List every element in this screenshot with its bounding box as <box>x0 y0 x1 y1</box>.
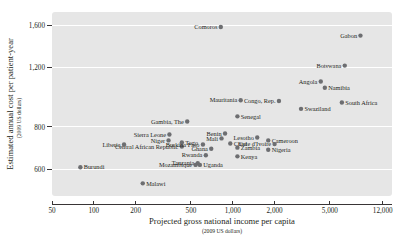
point-label: Cote d'Ivoire <box>238 140 271 147</box>
point-label: Swaziland <box>304 105 331 112</box>
y-tick-label: 1,600 <box>29 22 46 30</box>
point-marker <box>277 99 281 103</box>
point-marker <box>358 33 362 37</box>
point-marker <box>219 136 223 140</box>
point-label: Rwanda <box>182 151 203 158</box>
point-label: Botswana <box>317 62 342 69</box>
data-point: Mozambique <box>159 161 198 168</box>
x-tick-label: 100 <box>88 207 99 215</box>
x-tick-label: 5,000 <box>322 207 339 215</box>
y-tick-label: 1,200 <box>29 64 46 72</box>
point-label: Gambia, The <box>151 118 184 125</box>
point-marker <box>319 79 323 83</box>
point-label: South Africa <box>345 99 377 106</box>
point-marker <box>209 146 213 150</box>
point-marker <box>340 100 344 104</box>
data-point: Gambia, The <box>151 118 189 125</box>
point-label: Senegal <box>241 113 261 120</box>
point-marker <box>299 107 303 111</box>
point-marker <box>78 165 82 169</box>
data-point: South Africa <box>340 99 378 106</box>
point-label: Liberia <box>102 141 120 148</box>
point-marker <box>235 154 239 158</box>
y-axis-ticks: 6008001,2001,600 <box>29 22 52 174</box>
x-axis-title: Projected gross national income per capi… <box>149 216 295 226</box>
x-axis-subtitle: (2009 US dollars) <box>202 228 242 235</box>
point-label: Kenya <box>241 153 258 160</box>
point-label: Angola <box>299 78 318 85</box>
x-tick-label: 1,000 <box>225 207 242 215</box>
point-marker <box>223 131 227 135</box>
y-axis-title-group: Estimated annual cost per patient-year (… <box>5 38 23 170</box>
point-marker <box>198 163 202 167</box>
x-tick-label: 500 <box>186 207 197 215</box>
point-marker <box>235 114 239 118</box>
data-point: Swaziland <box>299 105 332 112</box>
x-tick-label: 200 <box>130 207 141 215</box>
x-tick-label: 50 <box>48 207 56 215</box>
data-point: Congo, Rep. <box>244 97 281 104</box>
x-tick-label: 2,000 <box>266 207 283 215</box>
y-tick-label: 800 <box>34 124 45 132</box>
y-axis-title: Estimated annual cost per patient-year <box>5 38 15 170</box>
y-tick-label: 600 <box>34 166 45 174</box>
point-label: Nigeria <box>272 146 291 153</box>
point-marker <box>343 63 347 67</box>
point-label: Congo, Rep. <box>244 97 276 104</box>
point-marker <box>238 98 242 102</box>
point-marker <box>266 148 270 152</box>
x-axis: 501002005001,0002,0005,00012,000 <box>48 201 393 215</box>
point-label: Burundi <box>84 163 105 170</box>
point-label: Mali <box>206 135 218 142</box>
point-marker <box>185 119 189 123</box>
point-label: Gabon <box>340 32 358 39</box>
point-label: Uganda <box>203 161 223 168</box>
point-label: Mauritania <box>210 96 238 103</box>
scatter-chart: ComorosGabonBotswanaAngolaNamibiaSouth A… <box>0 0 400 239</box>
point-marker <box>255 135 259 139</box>
point-marker <box>193 163 197 167</box>
x-axis-title-group: Projected gross national income per capi… <box>149 216 295 235</box>
point-label: Mozambique <box>159 161 192 168</box>
point-marker <box>167 132 171 136</box>
y-axis-subtitle: (2009 US dollars) <box>16 98 23 138</box>
point-marker <box>141 181 145 185</box>
point-marker <box>122 142 126 146</box>
point-marker <box>219 25 223 29</box>
point-marker <box>228 141 232 145</box>
point-label: Malawi <box>146 180 165 187</box>
point-label: Comoros <box>194 23 218 30</box>
point-marker <box>323 86 327 90</box>
point-marker <box>204 153 208 157</box>
x-tick-label: 12,000 <box>373 207 393 215</box>
point-label: Namibia <box>328 84 350 91</box>
